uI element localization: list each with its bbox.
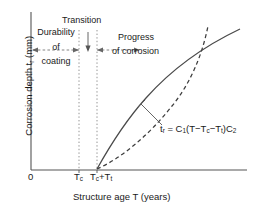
durability-annotation-line3: coating [32,57,80,67]
equation-close-paren: )C [223,123,233,134]
progress-arrow-left-icon [97,48,103,53]
x-tick-tc: Tc [74,172,83,183]
x-tick-tc-plus-tt: Tc+Tt [90,172,112,183]
durability-line-1: Durability [32,28,80,38]
durability-line-2: of [32,43,80,53]
progress-annotation-line2: of corrosion [112,47,159,57]
x-tick-tct-subscript-2: t [110,175,112,182]
durability-annotation: Durability [32,28,80,38]
y-axis-label-text: Corrosion depth t [23,63,34,136]
equation-c2-subscript: 2 [233,127,237,134]
durability-line-3: coating [32,57,80,67]
durability-annotation-line2: of [32,43,80,53]
equation-open-paren: (T−T [186,123,206,134]
equation-equals-c: = C [165,123,183,134]
equation-leader-line [141,104,162,125]
progress-annotation-line1: Progress [118,33,154,43]
transition-annotation: Transition [62,16,101,26]
x-axis-label: Structure age T (years) [73,192,170,202]
equation-minus-tt: −T [210,123,221,134]
transition-arrow-icon [85,46,90,53]
x-tick-tct-plus: +T [99,171,110,182]
corrosion-equation: tr = C1(T−Tc−Tt)C2 [160,124,236,135]
x-tick-origin: 0 [28,172,33,182]
x-tick-tc-subscript: c [80,175,83,182]
